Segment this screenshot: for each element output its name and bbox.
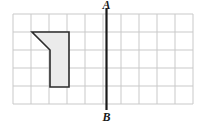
label-a: A bbox=[101, 0, 110, 12]
figure-canvas: A B bbox=[0, 0, 206, 123]
geometry-figure: A B bbox=[0, 0, 206, 123]
label-b: B bbox=[101, 110, 110, 123]
